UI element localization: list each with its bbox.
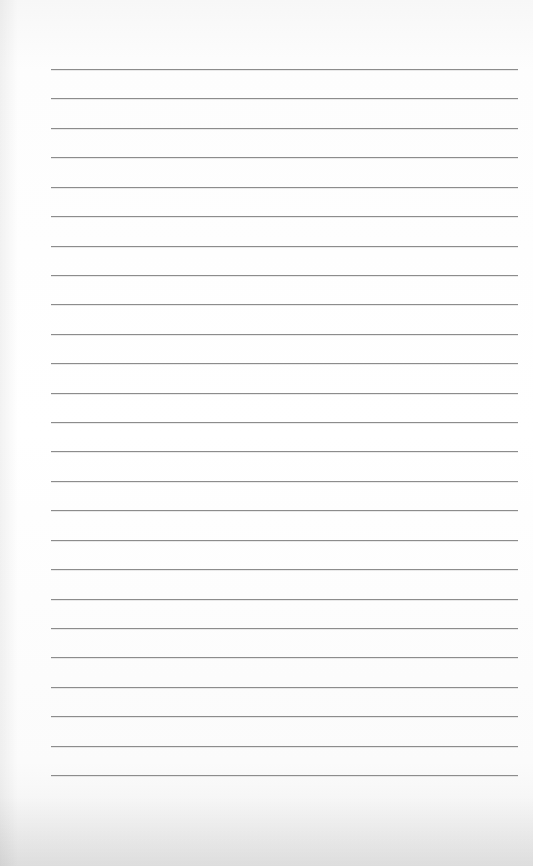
ruled-line bbox=[51, 716, 518, 717]
ruled-line bbox=[51, 657, 518, 658]
ruled-line bbox=[51, 687, 518, 688]
ruled-line bbox=[51, 98, 518, 99]
ruled-line bbox=[51, 363, 518, 364]
ruled-line bbox=[51, 393, 518, 394]
ruled-line bbox=[51, 157, 518, 158]
scan-shadow-bottom bbox=[0, 796, 533, 866]
ruled-line bbox=[51, 775, 518, 776]
ruled-line bbox=[51, 540, 518, 541]
ruled-line bbox=[51, 746, 518, 747]
ruled-line bbox=[51, 128, 518, 129]
ruled-line bbox=[51, 334, 518, 335]
ruled-line bbox=[51, 216, 518, 217]
ruled-line bbox=[51, 451, 518, 452]
ruled-line bbox=[51, 304, 518, 305]
ruled-line bbox=[51, 246, 518, 247]
ruled-line bbox=[51, 187, 518, 188]
ruled-line bbox=[51, 422, 518, 423]
ruled-line bbox=[51, 69, 518, 70]
ruled-line bbox=[51, 510, 518, 511]
ruled-line bbox=[51, 628, 518, 629]
ruled-line bbox=[51, 275, 518, 276]
scan-shadow-left bbox=[0, 0, 18, 866]
ruled-line bbox=[51, 481, 518, 482]
ruled-line bbox=[51, 569, 518, 570]
ruled-line bbox=[51, 599, 518, 600]
paper-sheet bbox=[0, 0, 533, 866]
